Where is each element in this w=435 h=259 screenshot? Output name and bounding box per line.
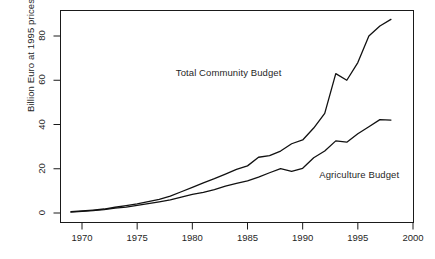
series-label-2: Agriculture Budget	[319, 169, 399, 180]
y-tick-label: 20	[36, 158, 47, 178]
x-tick-label: 1975	[124, 232, 150, 243]
series-label-1: Total Community Budget	[176, 67, 282, 78]
x-tick-label: 1985	[235, 232, 261, 243]
chart-figure: Billion Euro at 1995 prices 197019751980…	[0, 0, 435, 259]
y-axis-ticks	[54, 36, 61, 213]
y-tick-label: 60	[36, 70, 47, 90]
series-line-1	[71, 19, 391, 211]
x-tick-label: 1980	[179, 232, 205, 243]
plot-frame	[61, 11, 414, 223]
line-chart-plot	[0, 0, 435, 259]
x-tick-label: 2000	[400, 232, 426, 243]
series-line-2	[71, 120, 391, 212]
series-lines	[71, 19, 391, 212]
x-tick-label: 1990	[290, 232, 316, 243]
y-tick-label: 40	[36, 114, 47, 134]
x-tick-label: 1995	[345, 232, 371, 243]
y-tick-label: 0	[36, 203, 47, 223]
x-tick-label: 1970	[69, 232, 95, 243]
y-tick-label: 80	[36, 26, 47, 46]
x-axis-ticks	[82, 223, 413, 230]
y-axis-title: Billion Euro at 1995 prices	[25, 0, 36, 146]
